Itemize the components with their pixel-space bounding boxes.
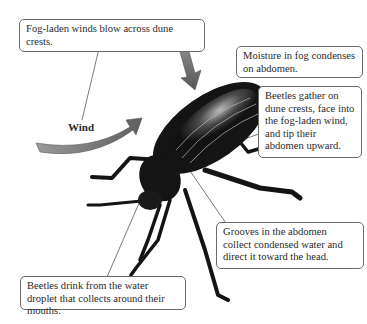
callout-drink: Beetles drink from the water droplet tha… [20, 276, 186, 310]
callout-beetles-gather: Beetles gather on dune crests, face into… [258, 86, 362, 158]
down-arrow-icon [180, 48, 201, 90]
callout-moisture-box: Moisture in fog condenses on abdomen. [236, 46, 363, 78]
wind-label: Wind [68, 121, 94, 133]
callout-grooves: Grooves in the abdomen collect condensed… [216, 222, 364, 269]
callout-fog-winds: Fog-laden winds blow across dune crests. [19, 19, 205, 52]
